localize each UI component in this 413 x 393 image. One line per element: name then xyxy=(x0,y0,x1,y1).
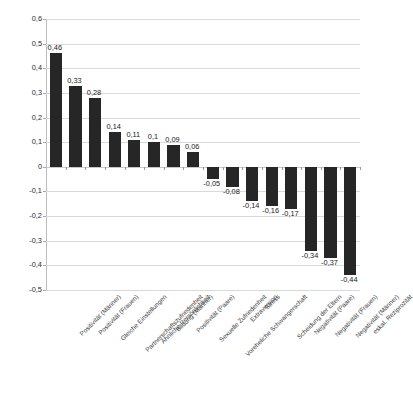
x-axis-tick-mark xyxy=(105,167,106,170)
x-axis-tick-mark xyxy=(66,167,67,170)
x-axis-tick-mark xyxy=(144,167,145,170)
y-axis-tick-label: 0,3 xyxy=(12,89,42,97)
x-axis-tick-mark xyxy=(321,167,322,170)
chart-title xyxy=(110,0,290,3)
gridline xyxy=(46,68,360,69)
y-axis-tick-mark xyxy=(43,290,46,291)
y-axis-tick-mark xyxy=(43,44,46,45)
x-axis-tick-mark xyxy=(223,167,224,170)
bar xyxy=(69,86,81,167)
bar-value-label: -0,44 xyxy=(331,276,368,284)
bar xyxy=(324,167,336,258)
x-axis-tick-mark xyxy=(85,167,86,170)
bar-value-label: -0,08 xyxy=(213,188,250,196)
bar xyxy=(148,142,160,167)
gridline xyxy=(46,44,360,45)
bar-value-label: -0,37 xyxy=(311,259,348,267)
bar-value-label: 0,06 xyxy=(174,143,211,151)
y-axis-tick-label: -0,1 xyxy=(12,187,42,195)
plot-area: 0,460,330,280,140,110,10,090,06-0,05-0,0… xyxy=(46,19,360,290)
bar xyxy=(305,167,317,251)
y-axis-tick-mark xyxy=(43,241,46,242)
y-axis-tick-mark xyxy=(43,118,46,119)
x-axis-tick-mark xyxy=(242,167,243,170)
bar xyxy=(266,167,278,206)
y-axis-tick-mark xyxy=(43,167,46,168)
x-axis-tick-mark xyxy=(164,167,165,170)
x-axis-tick-mark xyxy=(360,167,361,170)
bar xyxy=(207,167,219,179)
y-axis-tick-label: 0 xyxy=(12,163,42,171)
x-axis-tick-mark xyxy=(301,167,302,170)
bar xyxy=(344,167,356,275)
bar-value-label: -0,17 xyxy=(272,210,309,218)
x-axis-tick-mark xyxy=(203,167,204,170)
y-axis-tick-label: 0,1 xyxy=(12,138,42,146)
x-axis-tick-mark xyxy=(282,167,283,170)
y-axis-tick-label: -0,3 xyxy=(12,237,42,245)
y-axis-tick-mark xyxy=(43,68,46,69)
gridline xyxy=(46,19,360,20)
y-axis-tick-mark xyxy=(43,142,46,143)
y-axis-tick-mark xyxy=(43,265,46,266)
bar-value-label: 0,28 xyxy=(75,89,112,97)
y-axis-tick-label: 0,5 xyxy=(12,40,42,48)
y-axis-tick-mark xyxy=(43,19,46,20)
bar xyxy=(89,98,101,167)
y-axis-tick-label: 0,4 xyxy=(12,64,42,72)
y-axis-tick-mark xyxy=(43,216,46,217)
bar xyxy=(226,167,238,187)
y-axis-tick-mark xyxy=(43,93,46,94)
y-axis-tick-labels: 0,60,50,40,30,20,10-0,1-0,2-0,3-0,4-0,5 xyxy=(8,19,42,290)
y-axis-tick-label: 0,6 xyxy=(12,15,42,23)
bar xyxy=(50,53,62,166)
bar-value-label: 0,33 xyxy=(56,77,93,85)
x-axis-category-labels: Positivität (Männer)Positivität (Frauen)… xyxy=(0,291,380,393)
x-axis-tick-mark xyxy=(183,167,184,170)
y-axis-tick-label: -0,2 xyxy=(12,212,42,220)
y-axis-tick-mark xyxy=(43,191,46,192)
y-axis-tick-label: 0,2 xyxy=(12,114,42,122)
x-axis-tick-mark xyxy=(262,167,263,170)
x-axis-tick-mark xyxy=(340,167,341,170)
y-axis-tick-label: -0,4 xyxy=(12,261,42,269)
bar xyxy=(128,140,140,167)
bar xyxy=(246,167,258,201)
x-axis-tick-mark xyxy=(125,167,126,170)
bar xyxy=(187,152,199,167)
bar xyxy=(285,167,297,209)
